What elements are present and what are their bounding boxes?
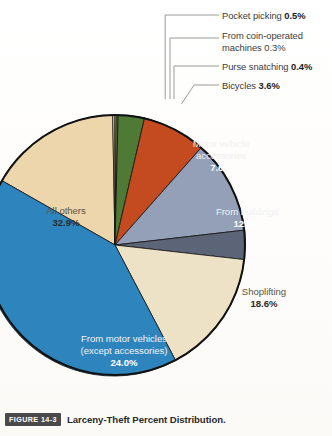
callout-pocket-picking: Pocket picking 0.5% xyxy=(222,10,305,22)
slice-label-motor-vehicle-accessories: Motor vehicle accessories 7.6% xyxy=(182,138,260,175)
slice-label-frommv-pct: 24.0% xyxy=(58,357,190,369)
leader-line-pocket-picking xyxy=(165,15,219,99)
leader-line-coin-operated xyxy=(170,38,219,99)
figure-page: Pocket picking 0.5% From coin-operated m… xyxy=(0,0,332,436)
slice-label-shoplifting-line1: Shoplifting xyxy=(242,286,286,297)
callout-bicycles-pct: 3.6% xyxy=(259,80,280,91)
slice-label-from-motor-vehicles: From motor vehicles (except accessories)… xyxy=(58,333,190,370)
leader-line-purse-snatching xyxy=(174,66,219,99)
callout-pocket-picking-name: Pocket picking xyxy=(222,10,282,21)
slice-label-frommv-line1: From motor vehicles xyxy=(81,333,167,344)
callout-coin-operated-line2: machines 0.3% xyxy=(222,42,285,53)
leader-lines xyxy=(165,15,219,104)
leader-line-bicycles xyxy=(182,85,220,104)
figure-caption-text: Larceny-Theft Percent Distribution. xyxy=(67,414,226,425)
callout-coin-operated-machines: From coin-operated machines 0.3% xyxy=(222,30,318,53)
pie-chart-area: Pocket picking 0.5% From coin-operated m… xyxy=(0,0,332,404)
callout-coin-operated-line1: From coin-operated xyxy=(222,30,303,41)
slice-label-all-others-line1: All others xyxy=(46,205,86,216)
callout-bicycles: Bicycles 3.6% xyxy=(222,80,280,92)
callout-purse-snatching: Purse snatching 0.4% xyxy=(222,61,312,73)
slice-label-all-others: All others 32.9% xyxy=(20,205,112,229)
slice-label-all-others-pct: 32.9% xyxy=(20,217,112,229)
slice-label-mva-line2: accessories xyxy=(196,150,246,161)
slice-label-shoplifting: Shoplifting 18.6% xyxy=(222,286,306,310)
slice-label-mva-pct: 7.6% xyxy=(182,162,260,174)
slice-label-shoplifting-pct: 18.6% xyxy=(222,298,306,310)
slice-label-mva-line1: Motor vehicle xyxy=(193,138,249,149)
callout-bicycles-name: Bicycles xyxy=(222,80,256,91)
slice-label-buildings-pct: 12.1% xyxy=(205,218,289,230)
slice-label-from-buildings: From buildings 12.1% xyxy=(205,206,289,230)
slice-label-frommv-line2: (except accessories) xyxy=(81,345,168,356)
figure-number-badge: FIGURE 14-3 xyxy=(5,413,61,426)
slice-label-buildings-line1: From buildings xyxy=(216,206,278,217)
callout-purse-snatching-pct: 0.4% xyxy=(291,61,312,72)
callout-purse-snatching-name: Purse snatching xyxy=(222,61,288,72)
callout-pocket-picking-pct: 0.5% xyxy=(284,10,305,21)
figure-caption-row: FIGURE 14-3 Larceny-Theft Percent Distri… xyxy=(5,413,226,426)
